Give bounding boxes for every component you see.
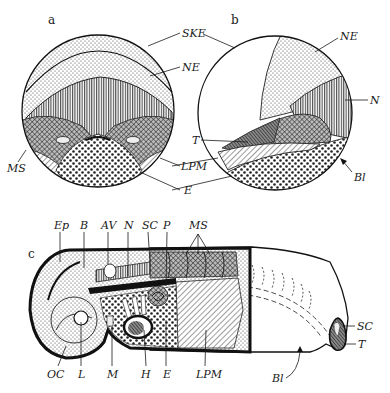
label-MS: MS: [6, 162, 26, 175]
label-T-tail: T: [358, 338, 367, 351]
label-NE-b: NE: [339, 30, 358, 43]
label-SKE: SKE: [182, 27, 206, 40]
label-T-b: T: [192, 134, 201, 147]
label-Bl-b: Bl: [353, 171, 366, 184]
label-SC-c: SC: [142, 219, 159, 232]
label-Bl-c: Bl: [271, 372, 284, 385]
label-MS-c: MS: [188, 219, 208, 232]
label-L: L: [77, 368, 85, 381]
panel-a-label: a: [48, 13, 55, 27]
label-H: H: [140, 368, 151, 381]
embryo-fate-map-figure: a SKE NE MS: [0, 0, 390, 393]
label-AV: AV: [100, 219, 117, 232]
label-NE: NE: [181, 61, 200, 74]
label-OC: OC: [47, 368, 65, 381]
panel-a: a SKE NE MS: [6, 13, 208, 200]
label-M: M: [106, 368, 119, 381]
panel-c: c: [28, 219, 374, 385]
label-SC-tail: SC: [357, 320, 374, 333]
panel-b-label: b: [231, 13, 239, 27]
label-Ep: Ep: [53, 219, 69, 232]
label-LPM-c: LPM: [195, 368, 223, 381]
label-E-c: E: [162, 368, 171, 381]
panel-c-label: c: [28, 247, 35, 261]
label-N-b: N: [369, 94, 380, 107]
label-P: P: [162, 219, 171, 232]
label-B: B: [79, 219, 88, 232]
label-N-c: N: [123, 219, 134, 232]
